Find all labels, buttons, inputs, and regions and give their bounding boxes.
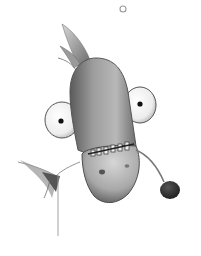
body [70,58,136,154]
left-nostril [99,170,105,175]
left-pupil [58,118,63,123]
lure-ball [160,181,180,199]
fish-illustration [0,0,201,256]
side-fin [18,160,80,236]
right-pupil [137,101,142,106]
lure-antenna [136,150,164,182]
right-nostril [125,164,130,168]
bubble [120,6,126,12]
